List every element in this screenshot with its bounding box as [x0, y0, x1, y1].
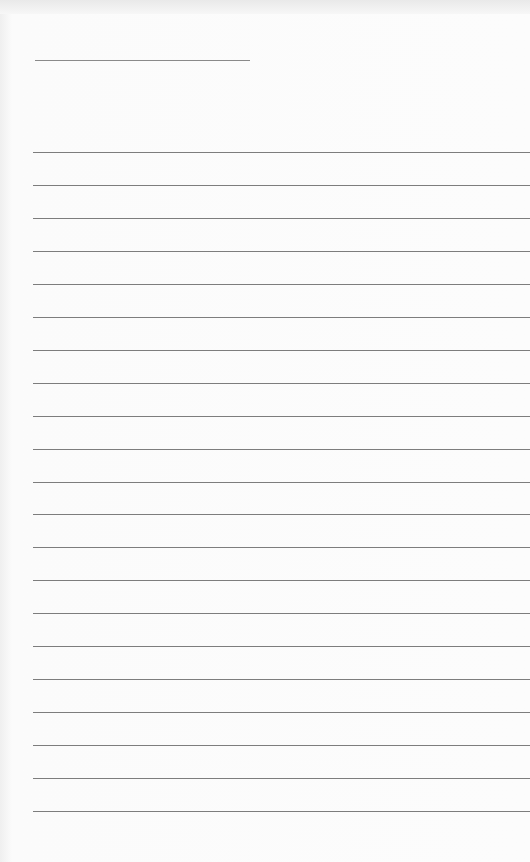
ruled-line — [33, 383, 530, 384]
ruled-line — [33, 284, 530, 285]
ruled-line — [33, 646, 530, 647]
scan-shadow — [0, 0, 530, 14]
title-blank-line — [35, 60, 250, 61]
ruled-line — [33, 350, 530, 351]
ruled-line — [33, 745, 530, 746]
ruled-line — [33, 679, 530, 680]
ruled-line — [33, 317, 530, 318]
lined-paper-page — [0, 0, 530, 862]
ruled-line — [33, 482, 530, 483]
ruled-line — [33, 218, 530, 219]
ruled-line — [33, 449, 530, 450]
ruled-line — [33, 778, 530, 779]
ruled-line — [33, 185, 530, 186]
ruled-line — [33, 152, 530, 153]
ruled-line — [33, 712, 530, 713]
ruled-line — [33, 613, 530, 614]
ruled-line — [33, 514, 530, 515]
ruled-line — [33, 416, 530, 417]
ruled-line — [33, 547, 530, 548]
ruled-line — [33, 251, 530, 252]
ruled-line — [33, 811, 530, 812]
ruled-line — [33, 580, 530, 581]
